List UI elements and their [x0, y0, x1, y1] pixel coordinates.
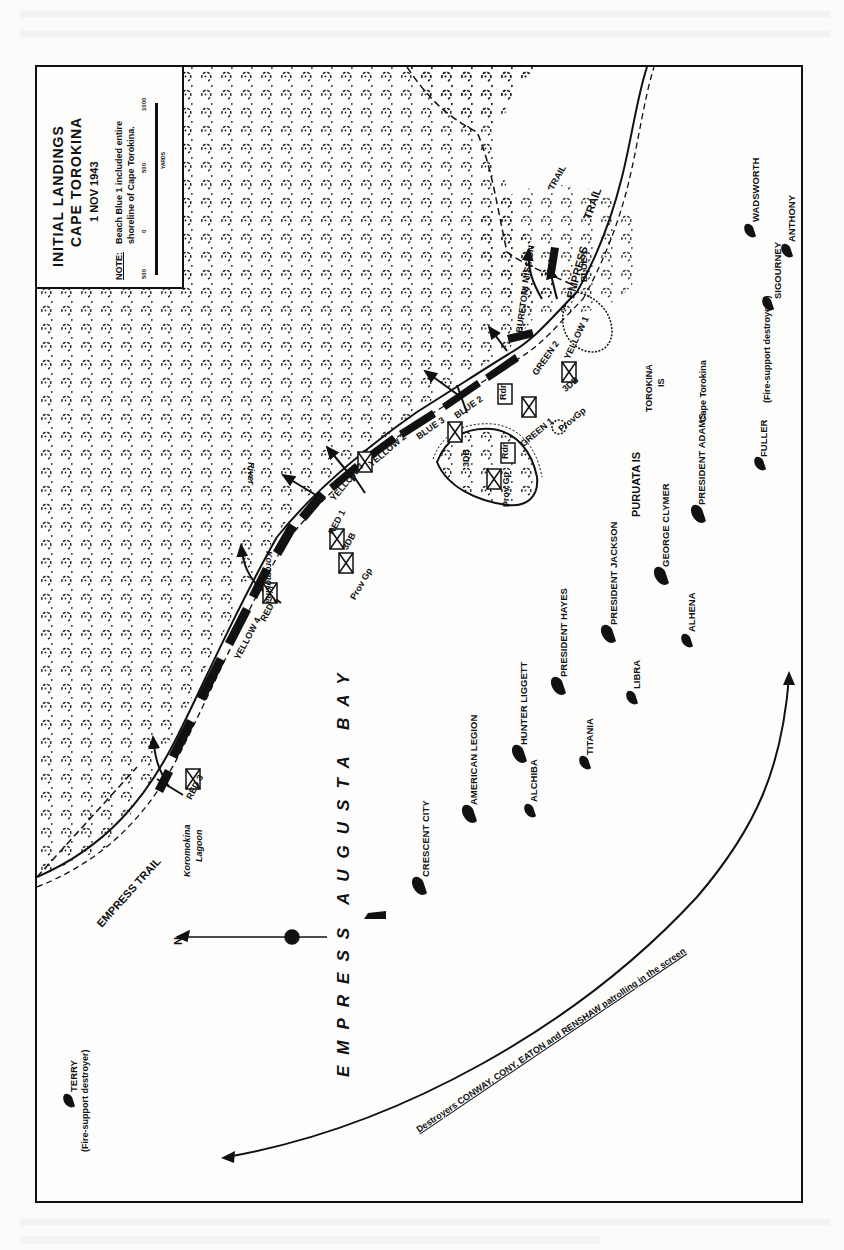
ship-libra: LIBRA [632, 660, 642, 689]
water-body-label-2: AUGUSTA BAY [335, 662, 352, 905]
note-text-line2: shoreline of Cape Torokina. [127, 126, 136, 244]
ship-president-adams: PRESIDENT ADAMS [697, 414, 707, 506]
lagoon-label-1: Koromokina [183, 824, 192, 877]
scale-tick-0: 500 [141, 269, 147, 279]
ship-wadsworth: WADSWORTH [751, 158, 761, 222]
note-text-line1: Beach Blue 1 included entire [115, 121, 124, 244]
unit-prov-gp-label-2: Prov Gp [502, 472, 511, 507]
unit-rdr-label-1: Rdr [501, 444, 510, 460]
destroyer-screen-arc [227, 677, 789, 1157]
ship-terry: TERRY [69, 1060, 79, 1092]
ship-president-hayes: PRESIDENT HAYES [559, 588, 569, 677]
ship-fuller: FULLER [759, 420, 769, 457]
legend-box: INITIAL LANDINGS CAPE TOROKINA 1 NOV 194… [37, 67, 184, 289]
map-title-line2: CAPE TOROKINA [69, 117, 83, 247]
scale-tick-2: 500 [141, 163, 147, 173]
torokina-is-label-1: TOROKINA [645, 364, 654, 412]
scale-tick-1: 0 [141, 230, 147, 233]
ship-sigourney: SIGOURNEY [773, 242, 783, 299]
ship-alchiba: ALCHIBA [529, 759, 539, 802]
unit-rdr-label-2: Rdr [499, 385, 508, 401]
ship-president-jackson: PRESIDENT JACKSON [609, 522, 619, 625]
ship-alhena: ALHENA [687, 592, 697, 632]
scale-bar [155, 103, 158, 275]
north-label: N [173, 937, 184, 945]
scale-tick-3: 1000 [141, 98, 147, 111]
map-date: 1 NOV 1943 [89, 161, 100, 222]
torokina-is-label-2: IS [657, 378, 666, 387]
ship-george-clymer: GEORGE CLYMER [661, 483, 671, 567]
north-arrow [177, 930, 327, 944]
water-body-label-1: EMPRESS [335, 917, 352, 1077]
puruata-is-label: PURUATA IS [631, 452, 642, 517]
ship-american-legion: AMERICAN LEGION [469, 715, 479, 805]
beach-blue-1: BLUE 1 [580, 250, 589, 282]
fire-support-note: (Fire-support destroyers) [763, 295, 772, 403]
scale-unit: YARDS [161, 152, 166, 169]
ship-hunter-liggett: HUNTER LIGGETT [519, 662, 529, 745]
note-label: NOTE: [115, 252, 124, 280]
ship-crescent-city: CRESCENT CITY [421, 800, 431, 877]
map-title-line1: INITIAL LANDINGS [51, 125, 65, 267]
unit-3db-label-2: 3DB [462, 449, 471, 467]
map-frame: INITIAL LANDINGS CAPE TOROKINA 1 NOV 194… [35, 65, 803, 1203]
lagoon-label-2: Lagoon [195, 830, 204, 863]
ship-anthony: ANTHONY [787, 195, 797, 242]
river-label-2: River [246, 462, 255, 485]
ship-titania: TITANIA [585, 718, 595, 755]
terry-note: (Fire-support destroyer) [81, 1049, 90, 1152]
